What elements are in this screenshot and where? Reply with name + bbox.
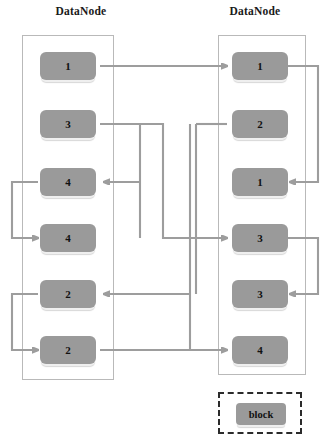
diagram-canvas: DataNode DataNode	[0, 0, 326, 438]
left-datanode-container	[22, 35, 114, 380]
right-block-0[interactable]: 1	[232, 52, 288, 80]
right-block-4-label: 3	[257, 288, 263, 300]
left-block-5[interactable]: 2	[40, 336, 96, 364]
right-block-4[interactable]: 3	[232, 280, 288, 308]
left-block-0-label: 1	[65, 60, 71, 72]
right-datanode-title: DataNode	[196, 5, 314, 17]
left-block-5-label: 2	[65, 344, 71, 356]
left-block-4[interactable]: 2	[40, 280, 96, 308]
right-block-3[interactable]: 3	[232, 224, 288, 252]
right-block-0-label: 1	[257, 60, 263, 72]
right-block-5-label: 4	[257, 344, 263, 356]
left-datanode-title: DataNode	[22, 5, 140, 17]
right-block-5[interactable]: 4	[232, 336, 288, 364]
right-block-3-label: 3	[257, 232, 263, 244]
left-block-1-label: 3	[65, 118, 71, 130]
left-block-4-label: 2	[65, 288, 71, 300]
legend-block-swatch: block	[236, 403, 286, 425]
left-block-2-label: 4	[65, 176, 71, 188]
right-block-1[interactable]: 2	[232, 110, 288, 138]
left-block-3-label: 4	[65, 232, 71, 244]
left-block-3[interactable]: 4	[40, 224, 96, 252]
left-block-0[interactable]: 1	[40, 52, 96, 80]
right-block-2-label: 1	[257, 176, 263, 188]
right-block-1-label: 2	[257, 118, 263, 130]
left-block-2[interactable]: 4	[40, 168, 96, 196]
right-block-2[interactable]: 1	[232, 168, 288, 196]
legend-box: block	[218, 392, 302, 434]
right-datanode-container	[218, 35, 306, 375]
legend-block-label: block	[249, 409, 274, 420]
left-block-1[interactable]: 3	[40, 110, 96, 138]
